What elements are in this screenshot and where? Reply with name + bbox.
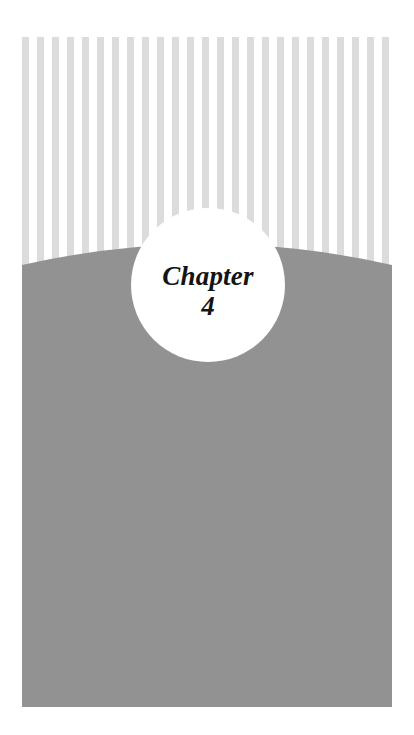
stripe: [337, 37, 344, 269]
chapter-divider-page: Chapter 4: [0, 0, 414, 735]
stripe: [142, 37, 149, 269]
stripe: [382, 37, 389, 269]
stripe: [82, 37, 89, 269]
stripe: [367, 37, 374, 269]
stripe: [22, 37, 29, 269]
stripe: [37, 37, 44, 269]
stripe: [292, 37, 299, 269]
stripe: [112, 37, 119, 269]
stripe: [97, 37, 104, 269]
stripe: [352, 37, 359, 269]
stripe: [127, 37, 134, 269]
chapter-number: 4: [201, 292, 215, 322]
stripe: [307, 37, 314, 269]
chapter-badge: Chapter 4: [131, 208, 285, 362]
chapter-label: Chapter: [162, 262, 253, 290]
stripe: [52, 37, 59, 269]
stripe: [277, 37, 284, 269]
stripe: [67, 37, 74, 269]
stripe: [322, 37, 329, 269]
